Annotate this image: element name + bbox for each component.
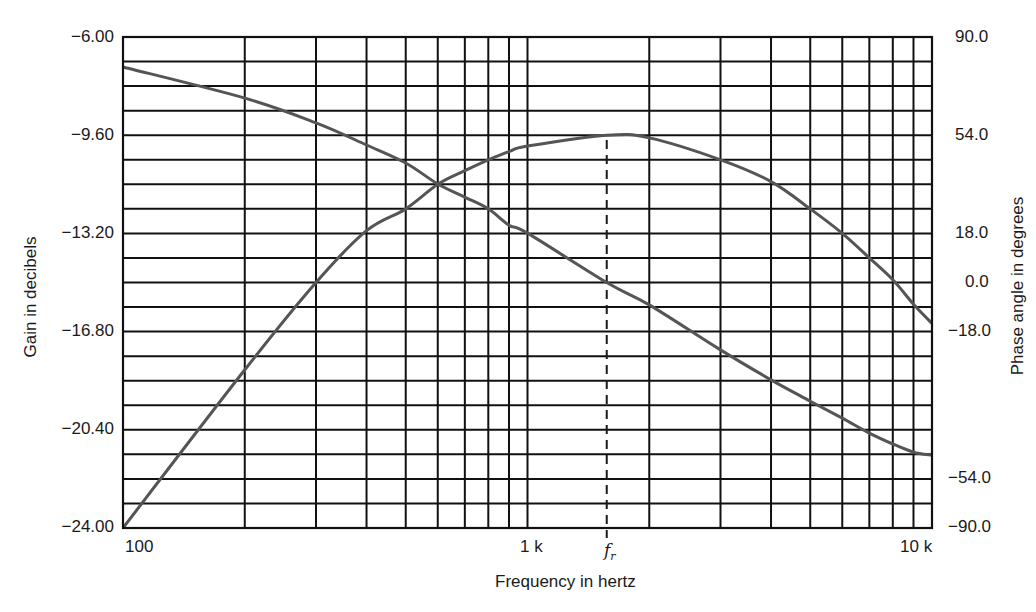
y-tick-label: −6.00 xyxy=(14,28,114,46)
y2-tick-label: −90.0 xyxy=(948,518,991,536)
y2-axis-title: Phase angle in degrees xyxy=(1008,197,1028,376)
y-tick-label: −24.00 xyxy=(14,518,114,536)
fr-subscript: r xyxy=(610,550,615,563)
x-tick-label: 1 k xyxy=(520,538,543,556)
y2-tick-label: 54.0 xyxy=(955,126,988,144)
y-tick-label: −9.60 xyxy=(14,126,114,144)
y2-tick-label: −54.0 xyxy=(948,469,991,487)
y2-tick-label: 90.0 xyxy=(955,28,988,46)
y-axis-title: Gain in decibels xyxy=(21,237,41,358)
x-tick-label: 100 xyxy=(125,538,153,556)
y2-tick-label: 18.0 xyxy=(955,224,988,242)
x-tick-label: 10 k xyxy=(900,538,932,556)
x-axis-title: Frequency in hertz xyxy=(495,572,636,592)
y2-tick-label: −18.0 xyxy=(948,322,991,340)
y2-tick-label: 0.0 xyxy=(965,273,989,291)
plot-area xyxy=(0,0,1036,612)
resonant-frequency-label: fr xyxy=(604,540,616,563)
vertical-gridlines xyxy=(123,37,932,528)
bode-plot-figure: −6.00 −9.60 −13.20 −16.80 −20.40 −24.00 … xyxy=(0,0,1036,612)
y-tick-label: −20.40 xyxy=(14,420,114,438)
